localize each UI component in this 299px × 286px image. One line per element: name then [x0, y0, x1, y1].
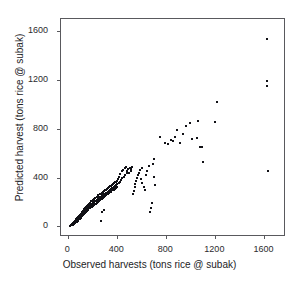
x-axis-tick	[117, 235, 118, 239]
data-point	[182, 133, 184, 135]
data-point	[151, 202, 153, 204]
data-point	[167, 143, 169, 145]
y-axis-tick-label: 1600	[28, 26, 48, 35]
data-point	[216, 101, 218, 103]
x-axis-tick-label: 0	[47, 245, 87, 254]
x-axis-tick-label: 1600	[243, 245, 283, 254]
data-point	[143, 186, 145, 188]
data-points-layer	[61, 19, 284, 235]
data-point	[266, 80, 268, 82]
data-point	[141, 167, 143, 169]
y-axis-tick-label: 800	[33, 124, 48, 133]
scatter-plot-figure: 040080012001600 040080012001600 Observed…	[0, 0, 299, 286]
data-point	[267, 170, 269, 172]
data-point	[119, 181, 121, 183]
x-axis-tick	[166, 235, 167, 239]
data-point	[196, 137, 198, 139]
x-axis-tick-labels: 040080012001600	[60, 241, 285, 255]
data-point	[185, 125, 187, 127]
data-point	[144, 189, 146, 191]
data-point	[131, 166, 133, 168]
data-point	[135, 180, 137, 182]
data-point	[123, 176, 125, 178]
y-axis-tick	[57, 129, 61, 130]
y-axis-tick	[57, 178, 61, 179]
data-point	[103, 209, 105, 211]
data-point	[146, 170, 148, 172]
data-point	[154, 184, 156, 186]
data-point	[145, 174, 147, 176]
data-point	[79, 218, 81, 220]
data-point	[176, 129, 178, 131]
x-axis-title: Observed harvests (tons rice @ subak)	[0, 259, 299, 270]
data-point	[202, 161, 204, 163]
y-axis-tick-label: 1200	[28, 75, 48, 84]
x-axis-tick	[264, 235, 265, 239]
data-point	[119, 173, 121, 175]
x-axis-tick-label: 400	[96, 245, 136, 254]
data-point	[201, 146, 203, 148]
x-axis-tick	[215, 235, 216, 239]
y-axis-tick-label: 400	[33, 173, 48, 182]
data-point	[132, 193, 134, 195]
x-axis-tick-label: 1200	[194, 245, 234, 254]
data-point	[136, 177, 138, 179]
data-point	[134, 186, 136, 188]
data-point	[152, 163, 154, 165]
data-point	[100, 220, 102, 222]
y-axis-title: Predicted harvest (tons rice @ subak)	[14, 3, 25, 233]
data-point	[179, 142, 181, 144]
data-point	[159, 136, 161, 138]
data-point	[101, 211, 103, 213]
y-axis-tick	[57, 80, 61, 81]
data-point	[118, 176, 120, 178]
y-axis-tick	[57, 226, 61, 227]
y-axis-tick-label: 0	[43, 221, 48, 230]
x-axis-tick	[68, 235, 69, 239]
data-point	[140, 178, 142, 180]
data-point	[153, 176, 155, 178]
data-point	[138, 172, 140, 174]
data-point	[133, 190, 135, 192]
data-point	[266, 85, 268, 87]
data-point	[130, 168, 132, 170]
plot-area	[60, 18, 285, 236]
y-axis-tick-labels: 040080012001600	[0, 18, 56, 236]
data-point	[148, 165, 150, 167]
data-point	[141, 182, 143, 184]
data-point	[174, 136, 176, 138]
data-point	[266, 38, 268, 40]
data-point	[150, 207, 152, 209]
data-point	[137, 174, 139, 176]
x-axis-tick-label: 800	[145, 245, 185, 254]
data-point	[153, 158, 155, 160]
data-point	[117, 178, 119, 180]
data-point	[214, 121, 216, 123]
data-point	[172, 140, 174, 142]
y-axis-tick	[57, 31, 61, 32]
data-point	[189, 122, 191, 124]
data-point	[134, 183, 136, 185]
data-point	[149, 211, 151, 213]
data-point	[197, 120, 199, 122]
data-point	[139, 169, 141, 171]
data-point	[191, 138, 193, 140]
data-point	[116, 186, 118, 188]
